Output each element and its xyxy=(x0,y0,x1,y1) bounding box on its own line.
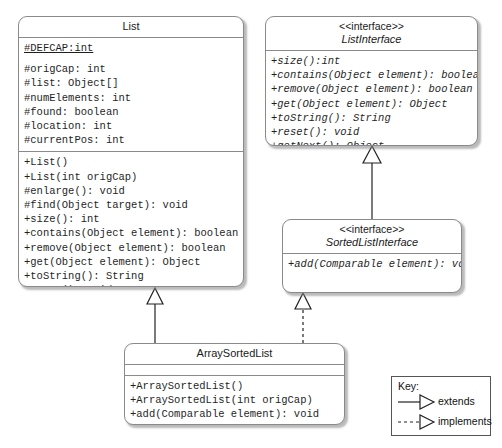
methods-section-arraysortedlist: +ArraySortedList() +ArraySortedList(int … xyxy=(125,376,344,425)
method: +add(Comparable element): void xyxy=(130,407,339,421)
attribute: #numElements: int xyxy=(24,91,238,105)
method: +contains(Object element): boolean xyxy=(24,226,238,240)
relationship-sortedlistinterface-extends-listinterface xyxy=(363,146,381,219)
method: +get(Object element): Object xyxy=(271,97,472,111)
method: +ArraySortedList(int origCap) xyxy=(130,393,339,407)
method: +List(int origCap) xyxy=(24,170,238,184)
implements-arrow-icon xyxy=(396,412,440,432)
method: +add(Comparable element): void xyxy=(288,257,456,271)
attribute: #origCap: int xyxy=(24,62,238,76)
stereotype-label: <<interface>> xyxy=(270,20,473,33)
legend-title: Key: xyxy=(392,377,490,392)
methods-section-list: +List() +List(int origCap) #enlarge(): v… xyxy=(19,152,243,287)
method: +get(Object element): Object xyxy=(24,255,238,269)
class-name-sortedlistinterface: SortedListInterface xyxy=(287,236,457,249)
method: #enlarge(): void xyxy=(24,184,238,198)
method: +remove(Object element): boolean xyxy=(271,82,472,96)
method: +reset(): void xyxy=(24,283,238,287)
attributes-section-list: #DEFCAP:int #origCap: int #list: Object[… xyxy=(19,38,243,152)
attribute: #found: boolean xyxy=(24,105,238,119)
method: +toString(): String xyxy=(271,111,472,125)
attributes-section-arraysortedlist xyxy=(125,365,344,376)
legend-key-box: Key: extends implements xyxy=(391,376,491,436)
method: #find(Object target): void xyxy=(24,198,238,212)
class-box-arraysortedlist[interactable]: ArraySortedList +ArraySortedList() +Arra… xyxy=(124,343,345,425)
class-box-list[interactable]: List #DEFCAP:int #origCap: int #list: Ob… xyxy=(18,16,244,287)
class-name-arraysortedlist: ArraySortedList xyxy=(197,347,273,359)
class-title-list: List xyxy=(19,17,243,38)
relationship-arraysortedlist-extends-list xyxy=(147,288,163,343)
method: +size(): int xyxy=(24,212,238,226)
attribute-static: #DEFCAP:int xyxy=(24,41,238,55)
class-box-listinterface[interactable]: <<interface>> ListInterface +size():int … xyxy=(265,16,478,146)
legend-label-implements: implements xyxy=(438,415,492,427)
legend-row-implements: implements xyxy=(392,412,490,432)
class-box-sortedlistinterface[interactable]: <<interface>> SortedListInterface +add(C… xyxy=(282,219,462,293)
class-title-sortedlistinterface: <<interface>> SortedListInterface xyxy=(283,220,461,254)
diagram-canvas: List : solid vertical line + hollow tria… xyxy=(0,0,502,448)
attribute: #location: int xyxy=(24,119,238,133)
class-name-listinterface: ListInterface xyxy=(270,33,473,46)
method: +size():int xyxy=(271,54,472,68)
class-title-listinterface: <<interface>> ListInterface xyxy=(266,17,477,51)
methods-section-sortedlistinterface: +add(Comparable element): void xyxy=(283,254,461,275)
attribute: #list: Object[] xyxy=(24,76,238,90)
extends-arrow-icon xyxy=(396,392,440,412)
method: +remove(Object element): boolean xyxy=(24,241,238,255)
legend-row-extends: extends xyxy=(392,392,490,412)
relationship-arraysortedlist-implements-sortedlistinterface xyxy=(295,293,311,343)
method: +contains(Object element): boolean xyxy=(271,68,472,82)
methods-section-listinterface: +size():int +contains(Object element): b… xyxy=(266,51,477,146)
method: +reset(): void xyxy=(271,125,472,139)
method: +toString(): String xyxy=(24,269,238,283)
class-name-list: List xyxy=(122,20,139,32)
method: +List() xyxy=(24,155,238,169)
method: +getNext(): Object xyxy=(271,139,472,146)
legend-label-extends: extends xyxy=(438,395,475,407)
method: +ArraySortedList() xyxy=(130,379,339,393)
stereotype-label: <<interface>> xyxy=(287,223,457,236)
attribute: #currentPos: int xyxy=(24,133,238,147)
class-title-arraysortedlist: ArraySortedList xyxy=(125,344,344,365)
